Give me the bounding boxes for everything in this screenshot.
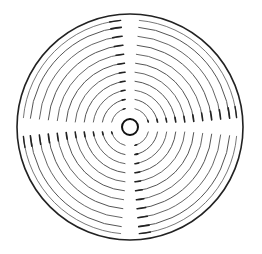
ring-arc-end-mark [166, 118, 167, 122]
ring-arc [66, 133, 124, 191]
ring-arc-end-mark [93, 132, 94, 136]
ring-arc-end-mark [138, 216, 147, 217]
ring-arc-end-mark [66, 133, 67, 140]
concentric-ring-diagram [0, 0, 262, 254]
ring-arc [93, 90, 125, 122]
ring-arc-end-mark [39, 135, 40, 144]
ring-arc [135, 109, 148, 122]
ring-arc [139, 136, 230, 227]
ring-arc-end-mark [57, 133, 58, 141]
ring-arc-end-mark [148, 120, 149, 122]
ring-arc [30, 136, 121, 227]
ring-arc-end-mark [113, 36, 122, 37]
ring-arc-end-mark [102, 132, 103, 135]
ring-arc-end-mark [135, 154, 138, 155]
ring-arc [139, 27, 230, 118]
ring-arc-end-mark [116, 54, 124, 55]
ring-arc [136, 54, 202, 120]
ring-arc-end-mark [135, 181, 141, 182]
ring-arc [135, 99, 158, 122]
ring-arc [135, 132, 148, 145]
outer-circle [17, 14, 243, 240]
ring-arc-end-mark [75, 132, 76, 138]
ring-arc-end-mark [135, 145, 137, 146]
ring-arc-end-mark [175, 117, 176, 122]
ring-arc [136, 63, 194, 121]
ring-arc-end-mark [193, 115, 194, 122]
inner-circle [122, 119, 138, 135]
ring-arc-end-mark [135, 172, 140, 173]
ring-arc [135, 132, 167, 164]
ring-arc [138, 135, 221, 218]
ring-arc-end-mark [136, 199, 144, 200]
ring-arc-end-mark [119, 72, 125, 73]
ring-arc-end-mark [23, 136, 25, 147]
ring-arc-end-mark [202, 113, 203, 121]
ring-arc-end-mark [136, 190, 143, 191]
ring-arc [112, 132, 125, 145]
ring-arc [135, 132, 185, 182]
ring-arc-end-mark [210, 111, 211, 120]
ring-arcs [23, 20, 236, 233]
ring-arc-end-mark [120, 81, 125, 82]
ring-arc-end-mark [157, 119, 158, 122]
ring-arc [135, 72, 185, 122]
ring-arc-end-mark [139, 232, 150, 234]
ring-arc-end-mark [139, 225, 149, 226]
ring-arc-end-mark [235, 107, 237, 118]
ring-arc [30, 27, 121, 118]
ring-arc [136, 133, 194, 191]
ring-arc-end-mark [228, 108, 229, 118]
ring-arc-end-mark [123, 109, 125, 110]
ring-arc [135, 132, 158, 155]
ring-arc-end-mark [114, 45, 123, 46]
ring-arc-end-mark [112, 132, 113, 134]
ring-arc-end-mark [121, 90, 125, 91]
ring-arc-end-mark [118, 63, 125, 64]
ring-arc [75, 72, 125, 122]
ring-arc [39, 36, 122, 119]
ring-arc [112, 109, 125, 122]
ring-arc [57, 54, 123, 120]
ring-arc-end-mark [111, 27, 121, 28]
ring-arc-end-mark [30, 136, 31, 146]
ring-arc [75, 132, 125, 182]
ring-arc [39, 135, 122, 218]
ring-arc-end-mark [48, 134, 49, 143]
ring-arc-end-mark [184, 116, 185, 122]
ring-arc [135, 90, 167, 122]
ring-arc [93, 132, 125, 164]
ring-arc [102, 99, 125, 122]
ring-arc-end-mark [135, 163, 139, 164]
ring-arc-end-mark [137, 207, 146, 208]
ring-arc [66, 63, 124, 121]
ring-arc [57, 133, 123, 199]
ring-arc-end-mark [84, 132, 85, 137]
ring-arc-end-mark [122, 99, 125, 100]
ring-arc [102, 132, 125, 155]
ring-arc [136, 133, 202, 199]
ring-arc-end-mark [110, 20, 121, 22]
ring-arc-end-mark [219, 110, 220, 119]
ring-arc [138, 36, 221, 119]
